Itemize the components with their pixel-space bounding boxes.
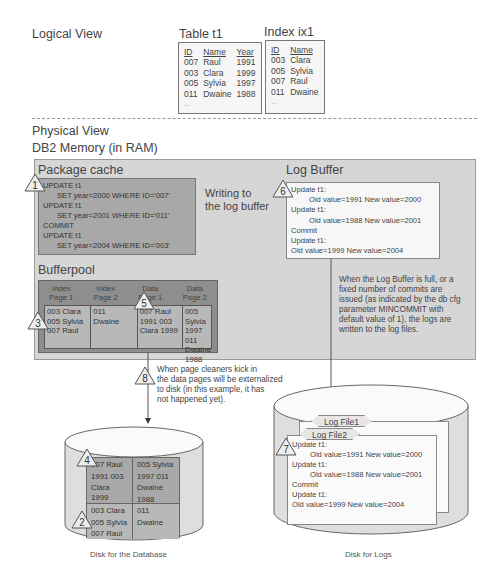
disk-index-page-1: 003 Clara 005 Sylvia 007 Raul	[87, 504, 133, 539]
disk-logs: Log File1 Update t1: Old value=1991 New …	[273, 384, 469, 536]
step-4-marker: 4	[76, 448, 98, 467]
disk-pages: 007 Raul 1991 003 Clara 1999 005 Sylvia …	[86, 457, 180, 538]
step-8-marker: 8	[134, 366, 156, 385]
log-file-2: Update t1: Old value=1991 New value=2000…	[287, 435, 437, 525]
log-file-2-tab: Log File2	[299, 428, 360, 440]
step-7-marker: 7	[275, 437, 297, 456]
disk-index-page-2: 011 Dwaine	[133, 504, 179, 539]
log-file-1-tab: Log File1	[311, 415, 372, 427]
disk-logs-label: Disk for Logs	[345, 550, 392, 559]
disk-database-label: Disk for the Database	[90, 550, 167, 559]
disk-data-page-2: 005 Sylvia 1997 011 Dwaine 1988	[133, 458, 179, 504]
step-2-marker: 2	[71, 510, 93, 529]
